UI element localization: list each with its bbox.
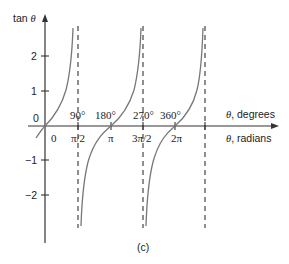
tan-branch-1: [36, 28, 73, 138]
axes: [28, 14, 279, 243]
tangent-chart: tan θ 2 1 0 −1 −2 90° 180° 270° 360° 0 π…: [0, 0, 289, 264]
y-tick-0: 0: [33, 112, 39, 124]
x-axis-label-radians: θ, radians: [226, 132, 271, 144]
y-tick-neg1: −1: [25, 154, 37, 166]
x-tick-90deg: 90°: [70, 109, 85, 121]
y-tick-2: 2: [31, 50, 37, 62]
x-tick-3pi2: 3π/2: [132, 132, 152, 144]
asymptotes: [78, 26, 205, 228]
x-tick-pi: π: [108, 132, 114, 144]
x-axis-label-degrees: θ, degrees: [226, 108, 275, 120]
x-tick-270deg: 270°: [133, 109, 154, 121]
y-axis-label: tan θ: [13, 12, 36, 24]
tangent-curves: [36, 28, 203, 226]
x-tick-2pi: 2π: [171, 132, 183, 144]
figure-caption: (c): [137, 241, 149, 253]
x-tick-pi2: π/2: [71, 132, 85, 144]
x-tick-0rad: 0: [51, 132, 57, 144]
y-tick-1: 1: [31, 85, 37, 97]
y-axis-arrow-icon: [42, 14, 48, 22]
x-axis-arrow-icon: [271, 123, 279, 129]
x-tick-360deg: 360°: [160, 109, 181, 121]
tan-branch-3: [146, 28, 203, 226]
x-tick-180deg: 180°: [95, 109, 116, 121]
y-tick-neg2: −2: [25, 189, 37, 201]
